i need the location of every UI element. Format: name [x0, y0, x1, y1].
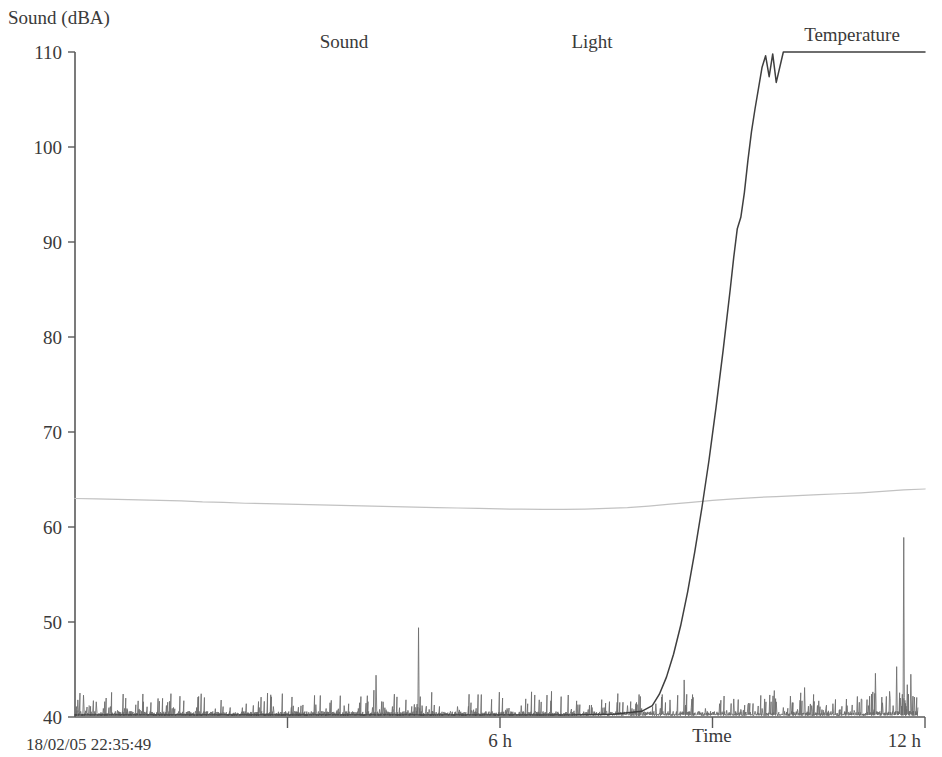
y-axis-title: Sound (dBA) — [8, 7, 110, 29]
start-timestamp-label: 18/02/05 22:35:49 — [26, 735, 151, 754]
y-tick-label: 70 — [43, 422, 62, 443]
x-axis-ticks — [288, 717, 926, 728]
y-tick-label: 100 — [34, 137, 63, 158]
y-axis-tick-labels: 405060708090100110 — [34, 42, 63, 728]
y-tick-label: 90 — [43, 232, 62, 253]
legend-label-light: Light — [571, 31, 613, 52]
y-tick-label: 110 — [34, 42, 62, 63]
y-tick-label: 60 — [43, 517, 62, 538]
y-tick-label: 50 — [43, 612, 62, 633]
y-axis-ticks — [68, 52, 75, 717]
legend-label-temperature: Temperature — [804, 24, 900, 45]
series-line-light — [75, 489, 925, 509]
legend-label-sound: Sound — [320, 31, 369, 52]
x-tick-label: 6 h — [488, 730, 512, 751]
y-tick-label: 40 — [43, 707, 62, 728]
sound-light-temperature-chart: Sound (dBA) Sound Light Temperature 4050… — [0, 0, 942, 757]
series-line-temperature — [75, 52, 925, 715]
y-tick-label: 80 — [43, 327, 62, 348]
x-axis-title: Time — [692, 725, 731, 746]
x-tick-label: 12 h — [888, 730, 922, 751]
chart-page: Sound (dBA) Sound Light Temperature 4050… — [0, 0, 942, 757]
series-line-sound — [75, 537, 918, 715]
